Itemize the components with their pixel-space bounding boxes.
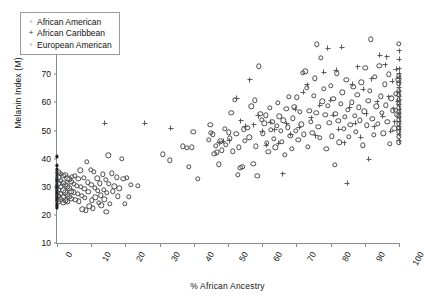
x-tick-mark <box>399 243 400 247</box>
data-point <box>309 115 314 120</box>
data-point <box>298 122 303 127</box>
data-point <box>350 82 355 87</box>
data-point <box>101 187 106 192</box>
data-point <box>95 176 100 181</box>
data-point <box>251 122 256 127</box>
data-point <box>238 118 243 123</box>
legend-item: ◦European American <box>25 39 112 51</box>
x-tick-mark <box>57 243 58 247</box>
data-point <box>286 94 291 99</box>
data-point <box>214 150 219 155</box>
data-point <box>281 118 286 123</box>
data-point <box>67 177 72 182</box>
data-point <box>283 106 288 111</box>
data-point <box>337 140 342 145</box>
data-point <box>82 186 87 191</box>
data-point <box>272 127 277 132</box>
data-point <box>359 79 364 84</box>
data-point <box>288 133 293 138</box>
data-point <box>313 133 318 138</box>
data-point <box>346 134 351 139</box>
data-point <box>339 45 344 50</box>
data-point <box>243 124 248 129</box>
x-tick-label: 20 <box>134 250 147 263</box>
data-point <box>110 189 115 194</box>
data-point <box>264 143 269 148</box>
data-point <box>55 194 58 197</box>
legend-item: +African Caribbean <box>25 28 112 40</box>
data-point <box>285 124 290 129</box>
data-point <box>309 130 314 135</box>
data-point <box>396 88 401 93</box>
data-point <box>357 118 362 123</box>
data-point <box>305 144 310 149</box>
data-point <box>382 82 387 87</box>
data-point <box>103 177 108 182</box>
data-point <box>126 194 131 199</box>
data-point <box>96 200 101 205</box>
data-point <box>99 203 104 208</box>
data-point <box>328 83 333 88</box>
legend-label: African Caribbean <box>37 28 105 38</box>
data-point <box>91 169 96 174</box>
data-point <box>320 99 325 104</box>
data-point <box>89 198 94 203</box>
data-point <box>160 151 165 156</box>
data-point <box>390 108 395 113</box>
data-point <box>396 73 401 78</box>
data-point <box>268 120 273 125</box>
data-point <box>268 127 273 132</box>
data-point <box>69 196 74 201</box>
data-point <box>397 66 402 71</box>
data-point <box>397 127 402 132</box>
x-axis-title: % African Ancestry <box>56 281 399 291</box>
data-point <box>186 164 191 169</box>
x-tick-mark <box>262 243 263 247</box>
data-point <box>327 120 332 125</box>
data-point <box>58 191 63 196</box>
data-point <box>208 130 213 135</box>
plus-marker-icon: + <box>25 29 37 37</box>
data-point <box>384 54 389 59</box>
data-point <box>353 121 358 126</box>
data-point <box>102 121 107 126</box>
data-point <box>55 205 58 208</box>
data-point <box>128 182 133 187</box>
data-point <box>293 107 298 112</box>
data-point <box>76 176 81 181</box>
data-point <box>88 182 93 187</box>
data-point <box>396 129 401 134</box>
x-tick-label: 100 <box>410 250 426 267</box>
x-tick-label: 80 <box>339 250 352 263</box>
data-point <box>397 71 402 76</box>
data-point <box>317 135 322 140</box>
data-point <box>56 187 61 192</box>
data-point <box>55 164 58 167</box>
data-point <box>65 176 70 181</box>
data-point <box>117 186 122 191</box>
data-point <box>58 196 63 201</box>
data-point <box>60 180 65 185</box>
data-point <box>396 140 401 145</box>
data-point <box>317 103 322 108</box>
data-point <box>397 48 402 53</box>
data-point <box>219 147 224 152</box>
data-point <box>374 104 379 109</box>
data-point <box>195 176 200 181</box>
circle-marker-icon: ◦ <box>25 41 37 49</box>
data-point <box>259 117 264 122</box>
data-point <box>301 90 306 95</box>
data-point <box>229 110 234 115</box>
data-point <box>86 204 91 209</box>
data-point <box>234 131 239 136</box>
data-point <box>167 158 172 163</box>
data-point <box>267 105 272 110</box>
data-point <box>331 113 336 118</box>
data-point <box>260 129 265 134</box>
y-tick-mark <box>54 158 57 159</box>
data-point <box>375 121 380 126</box>
data-point <box>369 76 374 81</box>
data-point <box>396 134 401 139</box>
data-point <box>206 137 211 142</box>
data-point <box>88 167 93 172</box>
